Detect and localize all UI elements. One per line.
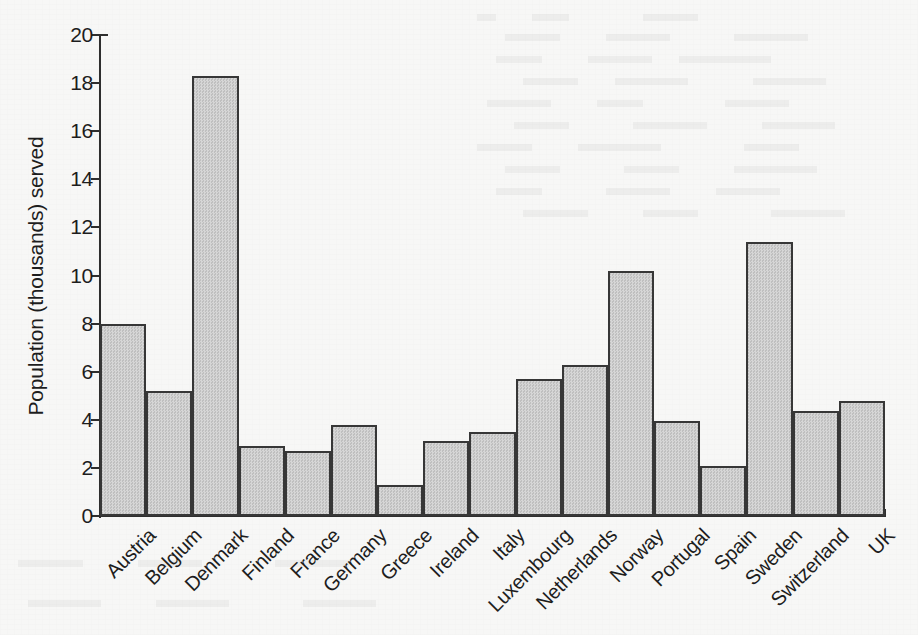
bar-slot (423, 35, 469, 516)
bar-chart: Population (thousands) served 2018161412… (0, 0, 918, 635)
y-axis-title: Population (thousands) served (24, 136, 48, 415)
x-label-slot: Norway (608, 520, 654, 635)
bar-slot (192, 35, 238, 516)
x-axis-labels: AustriaBelgiumDenmarkFinlandFranceGerman… (100, 520, 885, 635)
bar[interactable] (562, 365, 608, 517)
bar[interactable] (839, 401, 885, 516)
bar[interactable] (700, 466, 746, 517)
bar[interactable] (331, 425, 377, 516)
x-label-slot: Austria (100, 520, 146, 635)
bar-slot (746, 35, 792, 516)
bar[interactable] (469, 432, 515, 516)
bar-slot (146, 35, 192, 516)
y-tick-label: 14 (70, 167, 93, 191)
bar-slot (839, 35, 885, 516)
bar-slot (608, 35, 654, 516)
bar[interactable] (608, 271, 654, 516)
x-label-slot: Denmark (192, 520, 238, 635)
bar[interactable] (423, 441, 469, 516)
bar-slot (331, 35, 377, 516)
bar[interactable] (746, 242, 792, 516)
bar-slot (285, 35, 331, 516)
bar-slot (100, 35, 146, 516)
bar[interactable] (192, 76, 238, 516)
y-tick-label: 8 (82, 312, 93, 336)
y-tick-label: 0 (82, 504, 93, 528)
x-label-slot: Spain (700, 520, 746, 635)
x-tick-label: UK (864, 524, 899, 559)
bar-slot (377, 35, 423, 516)
y-tick-label: 2 (82, 456, 93, 480)
bar-slot (516, 35, 562, 516)
x-label-slot: Germany (331, 520, 377, 635)
bar[interactable] (285, 451, 331, 516)
bar[interactable] (239, 446, 285, 516)
bar-slot (700, 35, 746, 516)
y-tick-label: 16 (70, 119, 93, 143)
bar-slot (793, 35, 839, 516)
x-label-slot: Switzerland (793, 520, 839, 635)
y-tick-label: 6 (82, 360, 93, 384)
y-tick-label: 18 (70, 71, 93, 95)
bar-slot (239, 35, 285, 516)
bar-slot (562, 35, 608, 516)
y-tick-label: 4 (82, 408, 93, 432)
bar[interactable] (100, 324, 146, 516)
x-label-slot: Finland (239, 520, 285, 635)
bar-slot (654, 35, 700, 516)
y-tick-label: 20 (70, 23, 93, 47)
y-tick-label: 12 (70, 215, 93, 239)
x-label-slot: Greece (377, 520, 423, 635)
plot-area: Population (thousands) served 2018161412… (100, 35, 886, 516)
bar[interactable] (146, 391, 192, 516)
bar[interactable] (516, 379, 562, 516)
x-label-slot: Netherlands (562, 520, 608, 635)
x-label-slot: Portugal (654, 520, 700, 635)
bar-slot (469, 35, 515, 516)
bar[interactable] (654, 421, 700, 516)
x-label-slot: UK (839, 520, 885, 635)
bar-series (100, 35, 885, 516)
x-label-slot: Ireland (423, 520, 469, 635)
bar[interactable] (793, 411, 839, 516)
y-tick-label: 10 (70, 264, 93, 288)
bar[interactable] (377, 485, 423, 516)
